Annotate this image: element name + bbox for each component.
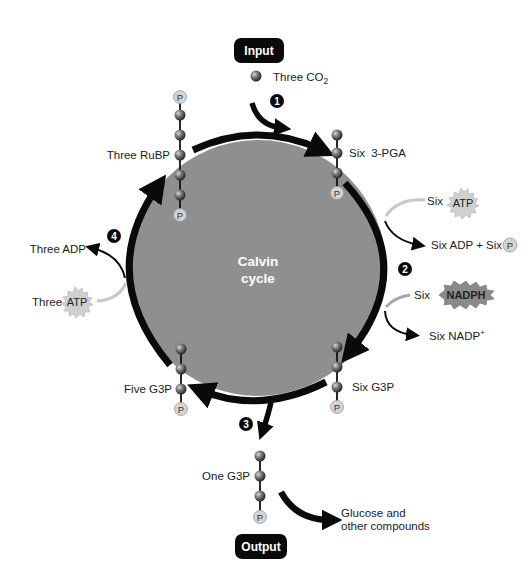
atp-label-left: ATP [67, 296, 88, 308]
arrow-atp-in-left [97, 283, 126, 301]
phosphate-icon: P [503, 238, 517, 252]
input-badge-label: Input [244, 44, 273, 58]
atp-burst-left: ATP [61, 287, 93, 318]
center-label-line1: Calvin [238, 254, 279, 269]
arrow-adp-out-right [385, 221, 419, 245]
output-badge: Output [235, 534, 287, 559]
six-atp-prefix: Six [427, 195, 443, 207]
svg-text:P: P [178, 404, 184, 415]
step-4-badge: 4 [107, 229, 121, 243]
glucose-label-line1: Glucose and [341, 507, 406, 519]
three-adp-label: Three ADP [30, 243, 87, 255]
svg-text:P: P [177, 210, 183, 221]
svg-text:P: P [177, 92, 183, 103]
arrow-to-glucose [281, 492, 330, 520]
co2-subscript: 2 [324, 76, 329, 86]
rubp-label: Three RuBP [107, 149, 171, 161]
svg-text:2: 2 [402, 264, 408, 275]
nadph-label: NADPH [446, 289, 485, 301]
svg-text:P: P [334, 402, 340, 413]
nadph-burst: NADPH [439, 281, 494, 309]
six-g3p-label: Six G3P [352, 381, 395, 393]
svg-text:1: 1 [274, 96, 280, 107]
arrow-atp-in-right [386, 200, 425, 216]
svg-text:P: P [257, 512, 263, 523]
step-1-badge: 1 [270, 94, 284, 108]
step-2-badge: 2 [398, 262, 412, 276]
nadp-superscript: + [480, 328, 485, 337]
atp-burst-right: ATP [447, 188, 479, 219]
svg-text:3: 3 [243, 419, 249, 430]
output-badge-label: Output [241, 540, 280, 554]
svg-text:4: 4 [111, 231, 117, 242]
arrow-nadph-in [386, 295, 410, 307]
six-nadp-label: Six NADP [429, 330, 480, 342]
six-adp-label: Six ADP + Six [431, 239, 502, 251]
one-g3p-molecule-chain: P [254, 451, 267, 524]
co2-label: Three CO [273, 71, 324, 83]
six-nadph-prefix: Six [414, 289, 430, 301]
glucose-label-line2: other compounds [341, 520, 430, 532]
svg-text:P: P [507, 240, 513, 251]
calvin-cycle-diagram: Calvin cycle Input Three CO2 1 [0, 0, 529, 583]
svg-text:Three CO2: Three CO2 [273, 71, 329, 86]
arrow-adp-out-left [92, 248, 125, 278]
center-label-line2: cycle [241, 271, 275, 286]
co2-molecule: Three CO2 [251, 71, 329, 87]
arrow-nadp-out [385, 311, 413, 335]
one-g3p-label: One G3P [202, 470, 250, 482]
step-3-badge: 3 [239, 417, 253, 431]
svg-text:P: P [334, 188, 340, 199]
atp-label-right: ATP [453, 197, 474, 209]
three-atp-prefix: Three [32, 296, 62, 308]
input-badge: Input [234, 38, 284, 63]
five-g3p-label: Five G3P [124, 383, 172, 395]
svg-text:Six NADP+: Six NADP+ [429, 328, 485, 342]
pga-label: Six 3-PGA [349, 147, 406, 159]
